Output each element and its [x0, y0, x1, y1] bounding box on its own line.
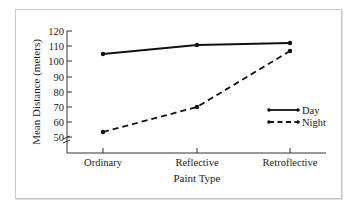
series-day [101, 41, 292, 56]
svg-text:Ordinary: Ordinary [84, 157, 123, 168]
x-axis-title: Paint Type [174, 172, 221, 184]
svg-text:120: 120 [48, 26, 64, 37]
svg-text:Day: Day [302, 105, 320, 116]
svg-text:110: 110 [49, 41, 64, 52]
legend: Day Night [267, 105, 326, 128]
svg-text:Reflective: Reflective [175, 157, 218, 168]
svg-text:Retroflective: Retroflective [263, 157, 318, 168]
svg-text:80: 80 [54, 87, 65, 98]
x-tick-labels: Ordinary Reflective Retroflective [84, 157, 318, 168]
y-axis-title: Mean Distance (meters) [30, 39, 43, 145]
series-night [101, 49, 292, 134]
svg-text:70: 70 [54, 102, 65, 113]
svg-text:50: 50 [54, 132, 65, 143]
y-ticks [67, 31, 72, 137]
svg-text:90: 90 [54, 72, 65, 83]
svg-text:Night: Night [302, 117, 326, 128]
line-chart: 120 110 100 90 80 70 60 50 Mean Distance… [0, 0, 353, 211]
legend-day: Day [267, 105, 320, 116]
x-ticks [103, 148, 290, 153]
svg-text:60: 60 [54, 117, 65, 128]
legend-night: Night [267, 117, 326, 128]
svg-text:100: 100 [48, 56, 64, 67]
y-tick-labels: 120 110 100 90 80 70 60 50 [48, 26, 64, 143]
